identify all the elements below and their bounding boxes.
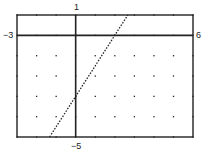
plotted-line: [50, 15, 128, 137]
axes: [17, 15, 193, 137]
label-ymax: 1: [74, 3, 79, 12]
graph-plot: [0, 0, 211, 158]
function-line: [50, 15, 128, 137]
label-xmin: −3: [3, 31, 13, 40]
grid-dots: [16, 14, 193, 137]
label-xmax: 6: [196, 31, 201, 40]
window-frame: [17, 15, 193, 137]
label-ymin: −5: [71, 142, 81, 151]
